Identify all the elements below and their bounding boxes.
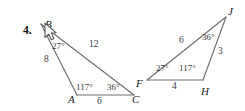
side-label-hj: 3 <box>218 47 223 57</box>
angle-label-h: 117° <box>179 64 196 73</box>
angle-label-c: 36° <box>107 83 120 92</box>
problem-number: 4. <box>23 25 32 37</box>
side-label-bc: 12 <box>89 40 99 50</box>
side-label-ac: 6 <box>97 97 102 107</box>
side-label-ba: 8 <box>44 55 49 65</box>
angle-label-j: 36° <box>202 33 215 42</box>
angle-label-a: 117° <box>76 83 93 92</box>
vertex-label-b: B <box>45 19 52 30</box>
geometry-figure-container: 4. B A C 27° 117° 36° 8 12 6 F H J 27° 1… <box>0 0 245 111</box>
side-label-fj: 6 <box>179 36 184 46</box>
side-label-fh: 4 <box>172 82 177 92</box>
angle-label-f: 27° <box>156 64 169 73</box>
vertex-label-c: C <box>132 94 139 105</box>
angle-label-b: 27° <box>52 42 65 51</box>
vertex-label-f: F <box>136 78 143 89</box>
vertex-label-h: H <box>201 86 209 97</box>
vertex-label-a: A <box>68 94 75 105</box>
vertex-label-j: J <box>228 6 233 17</box>
